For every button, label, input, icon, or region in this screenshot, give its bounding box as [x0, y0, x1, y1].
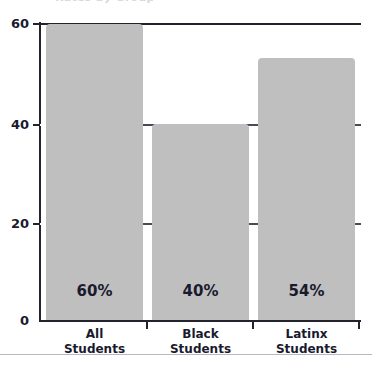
- x-tick-mark-3: [358, 322, 360, 329]
- gridline-gap-segment: [355, 124, 361, 126]
- bar-chart-figure: Rates by Group 60 40 20 0 60% 40% 54% Al…: [0, 0, 372, 365]
- gridline-gap-segment: [355, 223, 361, 225]
- footer-divider: [0, 354, 372, 355]
- y-axis-line: [39, 22, 41, 322]
- category-label-line-1: Latinx: [258, 327, 355, 342]
- category-label-black-students: Black Students: [152, 327, 249, 357]
- category-label-all-students: All Students: [46, 327, 143, 357]
- y-tick-label-40: 40: [0, 118, 29, 131]
- y-tick-label-60: 60: [0, 17, 29, 30]
- category-label-latinx-students: Latinx Students: [258, 327, 355, 357]
- bar-all-students[interactable]: [46, 24, 143, 320]
- bar-latinx-students[interactable]: [258, 58, 355, 320]
- category-label-line-1: Black: [152, 327, 249, 342]
- bar-value-black-students: 40%: [152, 284, 249, 299]
- y-tick-label-0: 0: [0, 314, 29, 327]
- category-label-line-1: All: [46, 327, 143, 342]
- x-tick-mark-1: [146, 322, 148, 329]
- x-tick-mark-2: [252, 322, 254, 329]
- cropped-title-remnant: Rates by Group: [55, 0, 215, 3]
- y-tick-label-20: 20: [0, 217, 29, 230]
- bar-value-all-students: 60%: [46, 284, 143, 299]
- x-axis-line: [39, 320, 361, 322]
- bar-value-latinx-students: 54%: [258, 284, 355, 299]
